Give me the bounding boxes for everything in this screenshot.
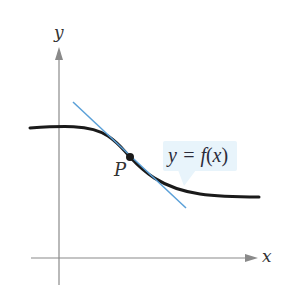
x-axis-label: x	[262, 248, 272, 265]
y-axis-arrow-icon	[55, 47, 63, 60]
y-axis-label: y	[54, 24, 64, 41]
function-label: y = f(x)	[168, 145, 228, 165]
point-p-label: P	[114, 161, 126, 179]
function-label-var: x	[213, 144, 222, 166]
callout-pointer	[178, 170, 196, 186]
x-axis-arrow-icon	[245, 254, 258, 262]
graph-canvas	[0, 0, 284, 296]
function-label-prefix: y =	[168, 144, 200, 166]
function-label-close: )	[222, 144, 229, 166]
function-label-open: (	[206, 144, 213, 166]
point-p	[126, 153, 134, 161]
